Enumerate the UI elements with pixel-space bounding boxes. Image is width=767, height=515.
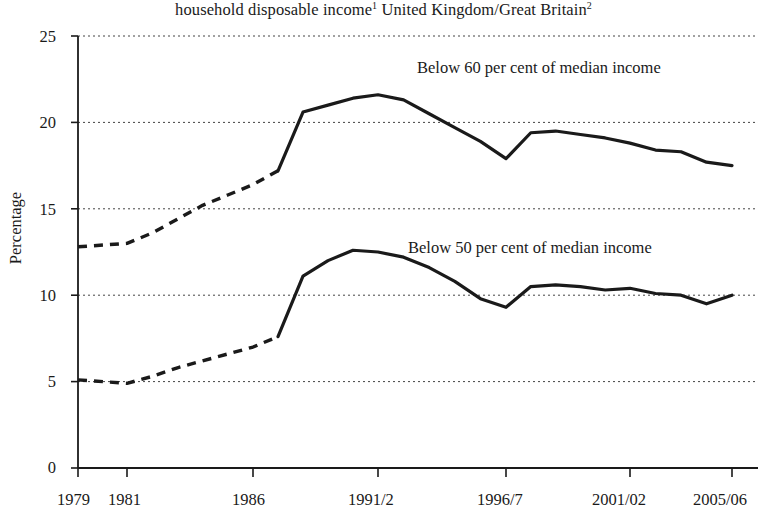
series-line-solid-1 [278, 250, 732, 336]
axes-group [71, 36, 758, 477]
chart-figure: household disposable income1 United King… [0, 0, 767, 515]
gridlines-group [78, 36, 758, 382]
series-line-solid-0 [278, 95, 732, 171]
series-line-dashed-1 [78, 337, 278, 384]
series-lines-group [78, 95, 732, 384]
chart-plot-area [0, 0, 767, 515]
